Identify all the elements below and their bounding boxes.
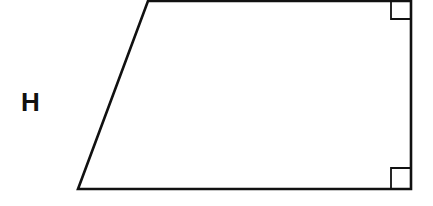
right-angle-marker-top xyxy=(391,1,411,19)
trapezoid-diagram xyxy=(0,0,433,206)
trapezoid-shape xyxy=(78,1,411,189)
right-angle-marker-bottom xyxy=(391,168,411,189)
height-label: H xyxy=(21,89,40,115)
